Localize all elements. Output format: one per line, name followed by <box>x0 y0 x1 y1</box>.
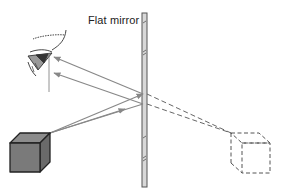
flat-mirror <box>142 13 147 187</box>
incident-ray-1 <box>50 94 143 133</box>
virtual-ray-extensions <box>147 94 231 133</box>
observer-eye <box>28 30 66 92</box>
virtual-image-cube <box>231 133 270 173</box>
plane-mirror-diagram <box>0 0 284 194</box>
reflected-rays <box>54 57 143 104</box>
real-object-cube <box>10 133 50 172</box>
incident-rays <box>50 94 143 133</box>
